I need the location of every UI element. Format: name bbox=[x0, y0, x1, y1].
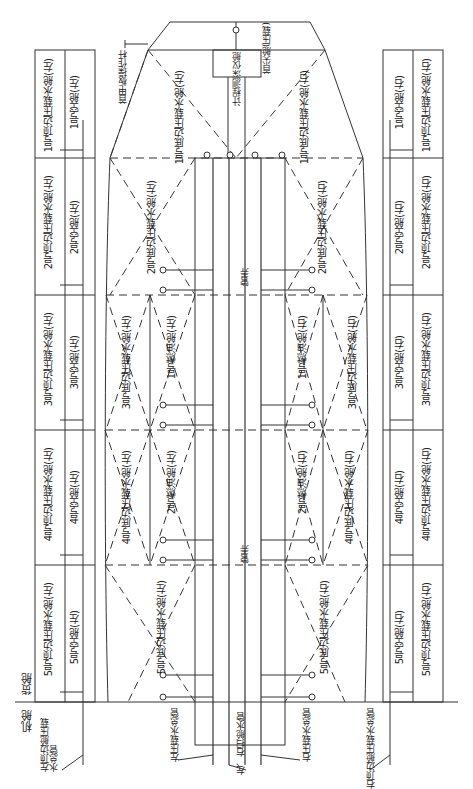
right-void-5: 5号空舱(右) bbox=[395, 610, 405, 664]
right-topside-tank-5: 5号顶边压载水舱(右) bbox=[422, 582, 432, 676]
left-topside-tank-4: 4号顶边压载水舱(左) bbox=[44, 447, 54, 541]
left-void-5: 5号空舱(左) bbox=[70, 610, 80, 664]
pipe-tunnel bbox=[195, 158, 285, 745]
right-db-tank-4: 4号底边压载水舱(右) bbox=[345, 450, 355, 544]
cargo-hold-label: 货舱 bbox=[22, 673, 33, 695]
right-db-tank-3: 3号底边压载水舱(右) bbox=[348, 315, 358, 409]
pipe-tunnel-label-1: 管弄 bbox=[240, 268, 249, 286]
right-ballast-main-label: 右压载水总管 bbox=[302, 708, 311, 762]
right-topside-tank-3: 3号顶边压载水舱(右) bbox=[422, 312, 432, 406]
left-db-tank-2: 2号底边压载水舱(左) bbox=[147, 180, 157, 274]
left-db-tank-3: 3号底边压载水舱(左) bbox=[122, 315, 132, 409]
left-db-tank-4: 4号底边压载水舱(左) bbox=[122, 450, 132, 544]
left-topside-main-label: 左顶边舱压载水总管 bbox=[40, 712, 62, 772]
right-topside-tank-4: 4号顶边压载水舱(右) bbox=[422, 447, 432, 541]
right-db-tank-5: 5号底边压载水舱(右) bbox=[320, 580, 330, 674]
left-fuel-tank-1: 1号燃油舱(左) bbox=[167, 315, 177, 379]
right-topside-main-label: 右顶边舱压载水总管 bbox=[366, 708, 375, 789]
left-void-1: 1号空舱(左) bbox=[70, 75, 80, 129]
right-fuel-tank-1: 1号燃油舱(右) bbox=[298, 315, 308, 379]
deck-operating-rod-label: 首甲板操作杆 bbox=[118, 50, 127, 104]
left-void-2: 2号空舱(左) bbox=[70, 200, 80, 254]
left-db-tank-5: 5号底边压载水舱(左) bbox=[157, 580, 167, 674]
right-db-tank-2: 2号底边压载水舱(右) bbox=[318, 180, 328, 274]
right-void-1: 1号空舱(右) bbox=[395, 75, 405, 129]
engine-room-label: 机舱 bbox=[22, 710, 33, 732]
left-topside-tank-2: 2号顶边压载水舱(左) bbox=[44, 175, 54, 269]
gauge-room-label: 计程测深仪舱 bbox=[232, 52, 241, 106]
pipe-tunnel-label-2: 管弄 bbox=[240, 545, 249, 563]
left-fuel-tank-2: 2号燃油舱(左) bbox=[167, 450, 177, 514]
forepeak-label: 首尖舱(压载) bbox=[262, 22, 271, 74]
bilge-main-label: 左、右扫舱水管 bbox=[236, 712, 245, 775]
left-ballast-main-label: 左压载水总管 bbox=[170, 708, 179, 762]
left-db-tank-1: 1号底边压载水舱(左) bbox=[175, 70, 185, 164]
left-void-3: 3号空舱(左) bbox=[70, 335, 80, 389]
left-void-4: 4号空舱(左) bbox=[70, 470, 80, 524]
right-void-4: 4号空舱(右) bbox=[395, 470, 405, 524]
left-topside-tank-3: 3号顶边压载水舱(左) bbox=[44, 312, 54, 406]
right-topside-tank-2: 2号顶边压载水舱(右) bbox=[422, 175, 432, 269]
right-fuel-tank-2: 2号燃油舱(右) bbox=[298, 450, 308, 514]
right-db-tank-1: 1号底边压载水舱(右) bbox=[300, 70, 310, 164]
right-void-3: 3号空舱(右) bbox=[395, 335, 405, 389]
valve-symbols bbox=[60, 150, 413, 697]
right-topside-tank-1: 1号顶边压载水舱(右) bbox=[422, 58, 432, 152]
right-void-2: 2号空舱(右) bbox=[395, 200, 405, 254]
left-topside-tank-1: 1号顶边压载水舱(左) bbox=[44, 58, 54, 152]
left-topside-tank-5: 5号顶边压载水舱(左) bbox=[44, 582, 54, 676]
